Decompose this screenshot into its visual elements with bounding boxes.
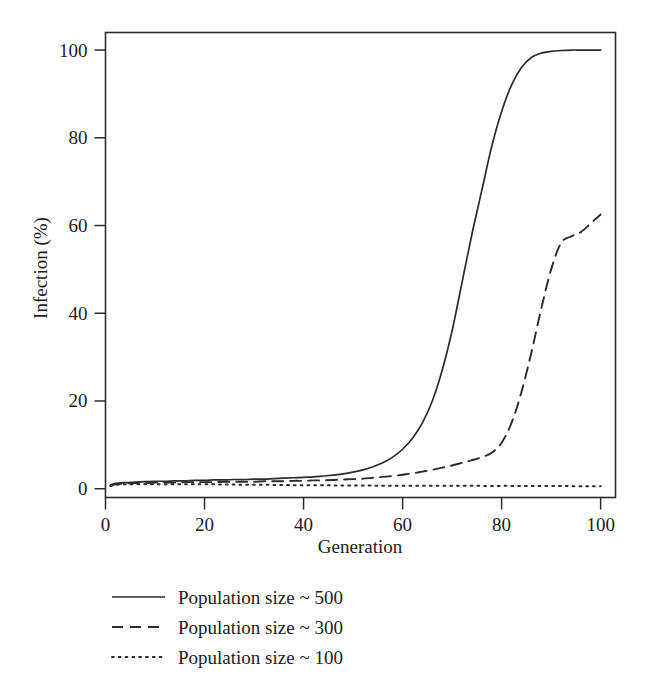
x-tick-label: 60: [393, 514, 412, 535]
y-tick-label: 80: [69, 127, 88, 148]
legend-item-label-1: Population size ~ 500: [178, 587, 343, 608]
y-axis-title: Infection (%): [30, 217, 52, 319]
chart-canvas: 020406080100 020406080100 Generation Inf…: [0, 0, 650, 695]
x-tick-label: 20: [195, 514, 214, 535]
x-axis-title: Generation: [318, 536, 403, 557]
y-tick-label: 40: [69, 303, 88, 324]
y-tick-label: 60: [69, 215, 88, 236]
x-tick-label: 100: [586, 514, 615, 535]
y-tick-label: 20: [69, 390, 88, 411]
infection-line-chart-figure: 020406080100 020406080100 Generation Inf…: [0, 0, 650, 695]
y-tick-label: 100: [59, 40, 88, 61]
x-tick-label: 40: [294, 514, 313, 535]
x-tick-label: 80: [492, 514, 511, 535]
y-tick-label: 0: [78, 478, 88, 499]
legend-item-label-2: Population size ~ 300: [178, 617, 343, 638]
legend-item-label-3: Population size ~ 100: [178, 647, 343, 668]
x-tick-label: 0: [101, 514, 111, 535]
